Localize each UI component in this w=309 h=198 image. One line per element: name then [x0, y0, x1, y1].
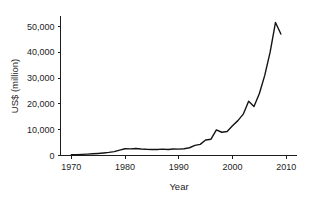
x-tick-label: 2010	[276, 162, 296, 172]
y-axis-tick-labels: 010,00020,00030,00040,00050,000	[27, 22, 55, 161]
x-tick-label: 1970	[61, 162, 81, 172]
y-tick-label: 10,000	[27, 125, 55, 135]
y-tick-label: 20,000	[27, 99, 55, 109]
y-tick-label: 50,000	[27, 22, 55, 32]
data-series-line	[71, 22, 281, 154]
x-axis-title: Year	[169, 181, 188, 192]
y-tick-label: 0	[49, 151, 54, 161]
x-tick-label: 2000	[222, 162, 242, 172]
y-tick-label: 30,000	[27, 73, 55, 83]
y-axis-title: US$ (million)	[9, 59, 20, 113]
x-axis-tick-labels: 19701980199020002010	[61, 162, 296, 172]
chart-figure: 010,00020,00030,00040,00050,000 19701980…	[0, 0, 309, 198]
line-chart: 010,00020,00030,00040,00050,000 19701980…	[0, 0, 309, 198]
x-tick-label: 1980	[115, 162, 135, 172]
x-tick-label: 1990	[169, 162, 189, 172]
y-tick-label: 40,000	[27, 47, 55, 57]
